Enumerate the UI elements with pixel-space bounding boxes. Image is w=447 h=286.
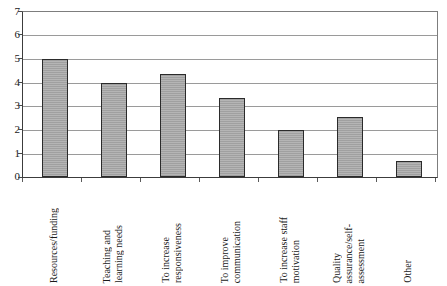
x-label-line: learning needs <box>113 225 125 283</box>
x-label-teaching-learning-needs: Teaching and learning needs <box>85 183 141 283</box>
x-label-to-increase-responsiveness: To increase responsiveness <box>144 183 200 283</box>
bar-chart: 7 6 5 4 3 2 1 0 <box>0 0 447 286</box>
x-tick-mark-0 <box>22 178 23 182</box>
bar-resources-funding <box>42 59 68 177</box>
x-label-other: Other <box>380 183 436 283</box>
bar-to-increase-responsiveness <box>160 74 186 177</box>
x-label-to-increase-staff-motivation: To increase staff motivation <box>262 183 318 283</box>
x-label-line: Teaching and <box>101 230 113 283</box>
x-label-line: To improve <box>219 237 231 283</box>
x-label-line: assurance/self- <box>343 224 355 283</box>
x-label-quality-assurance-self-assessment: Quality assurance/self- assessment <box>321 183 377 283</box>
x-label-to-improve-communication: To improve communication <box>203 183 259 283</box>
x-tick-mark-2 <box>140 178 141 182</box>
y-axis: 7 6 5 4 3 2 1 0 <box>0 0 20 286</box>
x-tick-mark-5 <box>317 178 318 182</box>
bar-teaching-learning-needs <box>101 83 127 177</box>
x-label-line: Quality <box>331 253 343 283</box>
x-tick-mark-1 <box>81 178 82 182</box>
x-label-line: assessment <box>355 239 367 283</box>
plot-area <box>22 11 438 178</box>
x-tick-mark-3 <box>199 178 200 182</box>
x-label-line: To increase <box>160 237 172 283</box>
bars <box>23 12 437 177</box>
x-label-line: communication <box>231 221 243 283</box>
x-tick-mark-6 <box>376 178 377 182</box>
bar-to-increase-staff-motivation <box>278 130 304 177</box>
x-label-line: motivation <box>290 240 302 283</box>
x-label-resources-funding: Resources/funding <box>26 183 82 283</box>
bar-to-improve-communication <box>219 98 245 177</box>
x-axis-labels: Resources/funding Teaching and learning … <box>22 183 438 286</box>
x-label-line: Resources/funding <box>48 208 60 283</box>
bar-other <box>396 161 422 178</box>
bar-quality-assurance-self-assessment <box>337 117 363 177</box>
x-label-line: Other <box>402 260 414 283</box>
x-label-line: responsiveness <box>172 223 184 283</box>
x-label-line: To increase staff <box>278 217 290 283</box>
x-tick-mark-7 <box>435 178 436 182</box>
x-tick-mark-4 <box>258 178 259 182</box>
